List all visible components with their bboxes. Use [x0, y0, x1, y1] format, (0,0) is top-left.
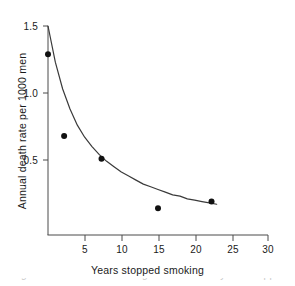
x-tick-label-15: 15 [146, 244, 172, 255]
x-axis-label: Years stopped smoking [0, 264, 295, 276]
figure-scatter-death-rate: 1.5 1.0 0.5 5 10 15 20 25 30 Years stopp… [0, 0, 295, 286]
x-tick-label-30: 30 [255, 244, 281, 255]
data-point-markers [45, 51, 215, 211]
figure-caption-text: Fig. 5.2 Death rate from lung cancer ver… [12, 278, 295, 280]
data-point [61, 133, 67, 139]
data-point [45, 51, 51, 57]
y-axis-label: Annual death rate per 1000 men [16, 36, 28, 226]
data-point [155, 205, 161, 211]
y-axis-ticks [43, 26, 48, 160]
x-tick-label-20: 20 [183, 244, 209, 255]
x-axis-ticks [85, 235, 268, 241]
data-point [99, 156, 105, 162]
y-tick-label-1.5: 1.5 [12, 21, 38, 32]
x-tick-label-5: 5 [72, 244, 98, 255]
fitted-curve [48, 26, 217, 204]
figure-caption-clipped: Fig. 5.2 Death rate from lung cancer ver… [0, 278, 295, 286]
x-tick-label-10: 10 [109, 244, 135, 255]
x-tick-label-25: 25 [220, 244, 246, 255]
data-point [209, 199, 215, 205]
